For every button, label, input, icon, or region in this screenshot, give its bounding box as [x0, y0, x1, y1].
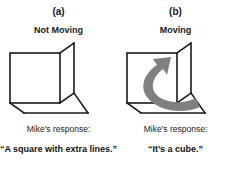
cube-depth-edge-bottom-left [10, 103, 24, 113]
cube-front-face [10, 53, 60, 103]
cube-depth-edge-top [60, 43, 74, 53]
panel-b-response-label: Mike's response: [144, 124, 208, 134]
panel-a-cube-holder [0, 41, 117, 119]
panel-b-response-quote: “It’s a cube.” [148, 144, 203, 155]
panel-a-letter: (a) [52, 6, 64, 17]
panel-b-condition-label: Moving [160, 25, 192, 35]
cube-depth-edge-bottom-right [60, 93, 74, 103]
panel-b-cube-holder [117, 41, 234, 119]
panel-b-letter: (b) [169, 6, 182, 17]
panel-a: (a) Not Moving Mike's response: “A squar… [0, 0, 117, 179]
rotating-cube-icon [117, 41, 234, 119]
cube-bottom-right-riser [74, 93, 88, 113]
panel-a-response-quote: “A square with extra lines.” [0, 144, 117, 155]
static-cube-icon [0, 41, 117, 119]
cube-depth-edge-bottom-left [127, 103, 141, 113]
panel-a-response-label: Mike's response: [27, 124, 91, 134]
cube-depth-edge-top [177, 43, 191, 53]
two-panel-cube-figure: (a) Not Moving Mike's response: “A squar… [0, 0, 234, 179]
panel-a-condition-label: Not Moving [34, 25, 83, 35]
panel-b: (b) Moving Mike's response: “It’s a cube… [117, 0, 234, 179]
